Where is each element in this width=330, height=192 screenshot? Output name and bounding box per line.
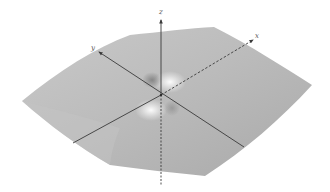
surface-sheet [22,27,312,176]
x-axis-label: x [255,32,259,40]
z-axis-label: z [158,8,163,16]
origin-point [160,94,162,96]
surface-plot: z y x [0,0,330,192]
singularity-highlight-lower [135,99,167,121]
y-axis-label: y [90,44,96,52]
singularity-shadow-upper-left [142,72,162,88]
singularity-shadow-lower-right [164,100,180,116]
